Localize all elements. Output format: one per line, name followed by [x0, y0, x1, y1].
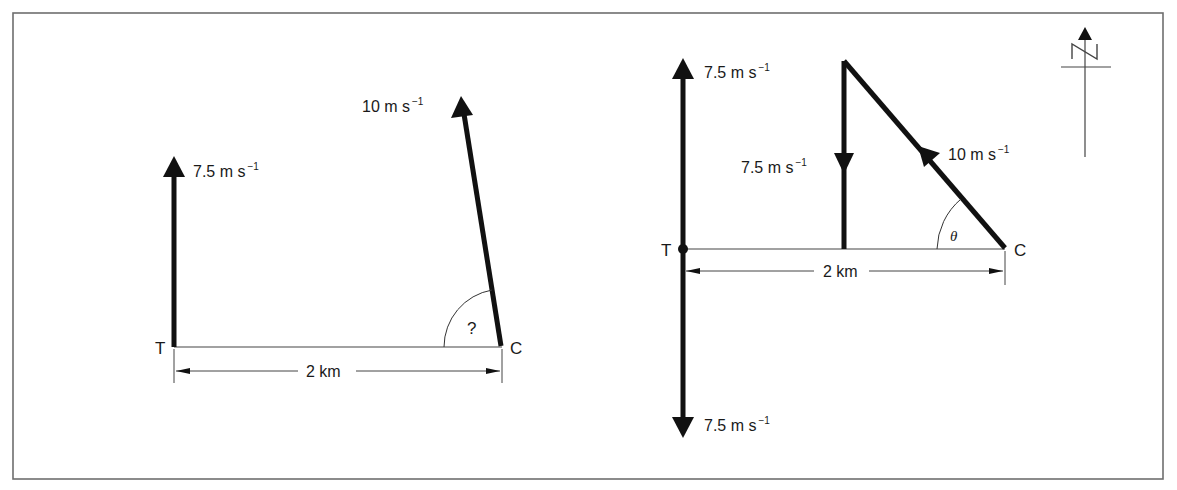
label-velocity-t: 7.5 m s−1	[193, 161, 259, 180]
north-arrow-icon	[1061, 27, 1111, 157]
arrowhead-up-icon	[672, 58, 694, 79]
label-velocity-c: 10 m s−1	[362, 96, 424, 115]
angle-label: ?	[467, 319, 476, 338]
figure-frame	[13, 13, 1163, 479]
velocity-arrow-t	[163, 156, 185, 347]
velocity-arrow-mid-down	[834, 61, 854, 249]
point-label-t: T	[661, 241, 671, 260]
point-label-c: C	[510, 339, 522, 358]
label-velocity-t-down: 7.5 m s−1	[704, 415, 770, 434]
point-label-c: C	[1014, 241, 1026, 260]
point-label-t: T	[155, 339, 165, 358]
left-diagram: 7.5 m s−1 10 m s−1 ? T C 2 km	[155, 96, 522, 383]
distance-label: 2 km	[823, 263, 858, 280]
arrowhead-down-icon	[834, 153, 854, 174]
velocity-arrow-t-down	[672, 249, 694, 438]
angle-arc	[937, 199, 961, 249]
angle-label-theta: θ	[950, 228, 958, 244]
arrowhead-up-icon	[163, 156, 185, 177]
label-velocity-mid: 7.5 m s−1	[741, 157, 807, 176]
velocity-arrow-t-up	[672, 58, 694, 249]
distance-label: 2 km	[306, 363, 341, 380]
arrowhead-nw-icon	[918, 146, 940, 167]
label-velocity-c: 10 m s−1	[948, 144, 1010, 163]
arrowhead-down-icon	[672, 417, 694, 438]
label-velocity-t-up: 7.5 m s−1	[704, 62, 770, 81]
diagram-figure: 7.5 m s−1 10 m s−1 ? T C 2 km	[0, 0, 1177, 490]
arrowhead-up-icon	[451, 96, 473, 118]
right-diagram: 7.5 m s−1 7.5 m s−1 7.5 m s−1 10 m s−1	[661, 58, 1026, 438]
point-marker-t	[678, 244, 688, 254]
